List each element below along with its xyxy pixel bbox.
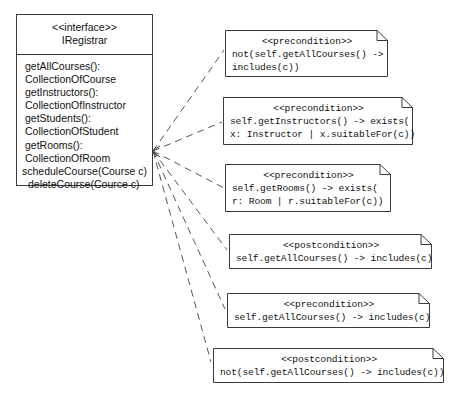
- note-stereotype: <<precondition>>: [232, 35, 382, 48]
- interface-header: <<interface>> IRegistrar: [17, 15, 152, 55]
- note-stereotype: <<precondition>>: [234, 298, 424, 311]
- note-content: <<precondition>> not(self.getAllCourses(…: [225, 30, 388, 80]
- note-stereotype: <<postcondition>>: [236, 239, 426, 252]
- note-stereotype: <<precondition>>: [232, 169, 385, 182]
- note-stereotype: <<precondition>>: [230, 102, 407, 115]
- uml-diagram-canvas: <<interface>> IRegistrar getAllCourses()…: [0, 0, 461, 393]
- note-precondition-1[interactable]: <<precondition>> not(self.getAllCourses(…: [225, 30, 388, 77]
- note-content: <<precondition>> self.getRooms() -> exis…: [225, 164, 391, 214]
- note-content: <<precondition>> self.getInstructors() -…: [223, 97, 413, 147]
- operation-get-rooms-return: CollectionOfRoom: [17, 152, 152, 165]
- operation-get-students-return: CollectionOfStudent: [17, 125, 152, 138]
- operation-get-instructors-return: CollectionOfInstructor: [17, 99, 152, 112]
- operation-get-rooms: getRooms():: [17, 139, 152, 152]
- operation-get-instructors: getInstructors():: [17, 86, 152, 99]
- operation-get-all-courses: getAllCourses():: [17, 60, 152, 73]
- interface-operations-compartment: getAllCourses(): CollectionOfCourse getI…: [17, 55, 152, 196]
- note-postcondition-2[interactable]: <<postcondition>> not(self.getAllCourses…: [213, 348, 444, 383]
- note-postcondition-1[interactable]: <<postcondition>> self.getAllCourses() -…: [229, 234, 432, 269]
- note-body-line: self.getRooms() -> exists(: [232, 182, 385, 195]
- note-body-line: not(self.getAllCourses() ->: [232, 48, 382, 61]
- interface-name: IRegistrar: [21, 34, 148, 47]
- note-content: <<postcondition>> not(self.getAllCourses…: [213, 348, 444, 384]
- note-body-line: r: Room | r.suitableFor(c)): [232, 195, 385, 208]
- note-body-line: includes(c)): [232, 61, 382, 74]
- connector-line-5: [153, 151, 225, 309]
- note-stereotype: <<postcondition>>: [220, 353, 438, 366]
- operation-delete-course: deleteCourse(Cource c): [17, 178, 152, 191]
- connector-line-6: [153, 151, 211, 362]
- note-content: <<precondition>> self.getAllCourses() ->…: [227, 293, 430, 329]
- note-precondition-3[interactable]: <<precondition>> self.getRooms() -> exis…: [225, 164, 391, 212]
- operation-get-all-courses-return: CollectionOfCourse: [17, 73, 152, 86]
- note-body-line: self.getInstructors() -> exists(: [230, 115, 407, 128]
- interface-stereotype: <<interface>>: [21, 21, 148, 34]
- operation-schedule-course: scheduleCourse(Course c): [17, 165, 152, 178]
- connector-line-4: [153, 151, 227, 250]
- operation-get-students: getStudents():: [17, 112, 152, 125]
- note-content: <<postcondition>> self.getAllCourses() -…: [229, 234, 432, 270]
- note-precondition-2[interactable]: <<precondition>> self.getInstructors() -…: [223, 97, 413, 145]
- note-body-line: self.getAllCourses() -> includes(c): [236, 252, 426, 265]
- note-body-line: not(self.getAllCourses() -> includes(c)): [220, 366, 438, 379]
- interface-class-box[interactable]: <<interface>> IRegistrar getAllCourses()…: [16, 14, 153, 186]
- connector-line-3: [153, 151, 224, 188]
- note-precondition-4[interactable]: <<precondition>> self.getAllCourses() ->…: [227, 293, 430, 328]
- note-body-line: x: Instructor | x.suitableFor(c)): [230, 128, 407, 141]
- note-body-line: self.getAllCourses() -> includes(c): [234, 311, 424, 324]
